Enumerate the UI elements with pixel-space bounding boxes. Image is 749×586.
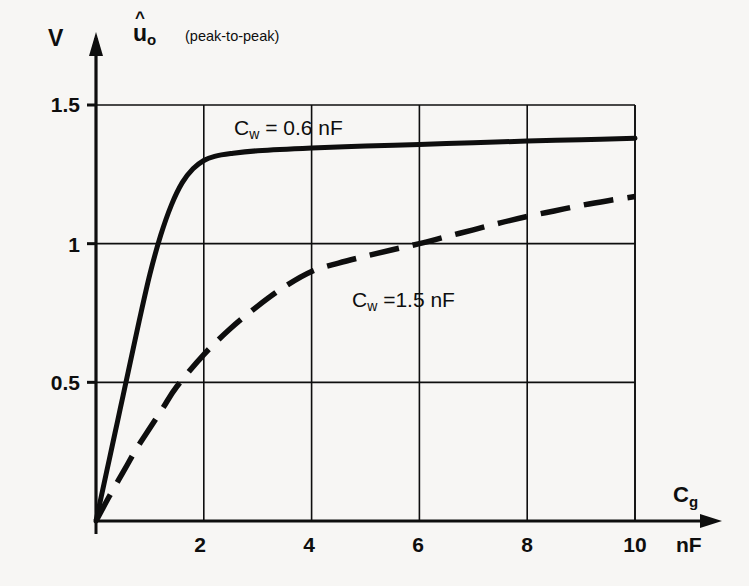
- curve-label-sub-0: w: [249, 126, 259, 142]
- x-quantity-subscript: g: [689, 493, 698, 510]
- curve-label-value-0: = 0.6 nF: [265, 116, 343, 139]
- circumflex-accent-icon: ^: [135, 9, 145, 26]
- x-axis-unit: nF: [676, 534, 702, 555]
- x-tick-label-6: 6: [398, 534, 438, 555]
- chart-figure: V ^uo (peak-to-peak) 1.5 1 0.5 2 4 6 8 1…: [0, 0, 749, 586]
- x-axis-quantity-label: Cg: [673, 484, 698, 509]
- curve-label-value-1: =1.5 nF: [383, 288, 455, 311]
- gridlines: [96, 105, 635, 521]
- curve-label-base-0: C: [234, 116, 249, 139]
- x-tick-label-10: 10: [615, 534, 655, 555]
- y-tick-label-1: 1: [20, 234, 80, 255]
- x-tick-label-4: 4: [289, 534, 329, 555]
- curve-cw-1-5nf: [96, 197, 635, 521]
- curve-label-sub-1: w: [367, 298, 377, 314]
- curve-label-cw-0-6nf: Cw = 0.6 nF: [234, 117, 343, 141]
- curve-cw-0-6nf: [96, 138, 635, 521]
- curve-label-cw-1-5nf: Cw =1.5 nF: [352, 289, 455, 313]
- y-axis-quantity-note: (peak-to-peak): [185, 29, 279, 44]
- y-quantity-subscript: o: [147, 31, 156, 48]
- axis-arrowheads: [89, 32, 722, 528]
- y-tick-label-1-5: 1.5: [20, 94, 80, 115]
- y-axis-unit: V: [48, 27, 64, 50]
- x-tick-label-8: 8: [507, 534, 547, 555]
- axes: [87, 38, 712, 534]
- x-tick-label-2: 2: [180, 534, 220, 555]
- y-axis-quantity-label: ^uo: [133, 22, 156, 47]
- x-quantity-letter: C: [673, 482, 689, 507]
- y-quantity-base: ^u: [133, 22, 147, 45]
- curve-label-base-1: C: [352, 288, 367, 311]
- y-tick-label-0-5: 0.5: [20, 372, 80, 393]
